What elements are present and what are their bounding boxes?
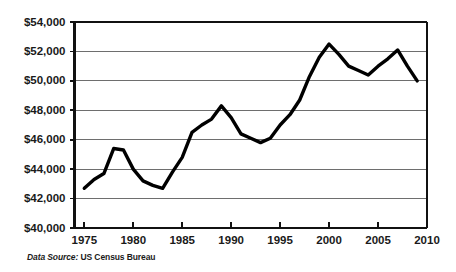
x-axis-tick-label: 2010 <box>414 234 440 246</box>
y-axis-tick-label: $48,000 <box>24 104 66 116</box>
x-axis-tick-label: 1990 <box>218 234 244 246</box>
gridlines <box>75 51 428 198</box>
data-source-caption: Data Source: US Census Bureau <box>27 252 155 262</box>
chart-plot-area: $40,000$42,000$44,000$46,000$48,000$50,0… <box>0 0 456 272</box>
x-axis-tick-label: 1985 <box>169 234 195 246</box>
x-axis-tick-label: 1995 <box>267 234 293 246</box>
y-axis-tick-label: $50,000 <box>24 74 66 86</box>
income-data-series-line <box>84 44 417 188</box>
y-axis-tick-labels: $40,000$42,000$44,000$46,000$48,000$50,0… <box>24 16 66 234</box>
y-axis-tick-label: $52,000 <box>24 45 66 57</box>
x-axis-tick-label: 1975 <box>71 234 97 246</box>
y-axis-tick-label: $40,000 <box>24 222 66 234</box>
plot-frame <box>74 21 427 229</box>
y-axis-tick-label: $54,000 <box>24 16 66 28</box>
x-axis-tick-label: 2000 <box>316 234 342 246</box>
data-source-value: US Census Bureau <box>81 252 156 262</box>
data-source-label: Data Source: <box>27 252 78 262</box>
y-axis-tick-label: $42,000 <box>24 192 66 204</box>
x-axis-tick-label: 1980 <box>120 234 146 246</box>
x-axis-tick-label: 2005 <box>365 234 391 246</box>
x-axis-tick-labels: 19751980198519901995200020052010 <box>71 234 439 246</box>
y-axis-tick-label: $44,000 <box>24 163 66 175</box>
income-line-chart-figure: $40,000$42,000$44,000$46,000$48,000$50,0… <box>0 0 456 272</box>
y-axis-tick-label: $46,000 <box>24 133 66 145</box>
